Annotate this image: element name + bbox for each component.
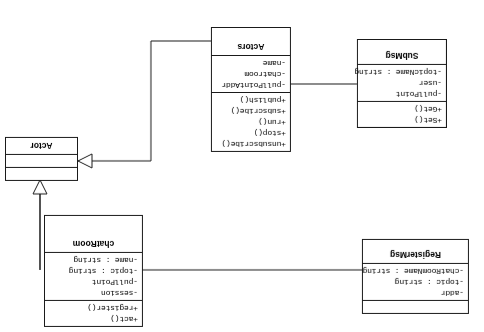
actors-methods-compartment: +unsubscribe() +stop() +run() +subscribe…: [212, 92, 290, 151]
attribute-item: -pullPoint: [49, 277, 138, 288]
uml-diagram: -addr -topic : string -chatRoomName : st…: [0, 0, 484, 332]
actors-attributes-compartment: -pullPointAddr -chatroom -name: [212, 55, 290, 92]
attribute-item: -topic : string: [367, 277, 464, 288]
class-box-registermsg[interactable]: -addr -topic : string -chatRoomName : st…: [362, 239, 469, 314]
attribute-item: -user: [362, 78, 442, 89]
method-item: +unsubscribe(): [216, 139, 286, 150]
method-item: +Get(): [362, 104, 442, 115]
registermsg-class-name: RegisterMsg: [363, 247, 468, 263]
actor-methods-compartment: [6, 167, 77, 180]
attribute-item: -pullPoint: [362, 89, 442, 100]
diagram-canvas: -addr -topic : string -chatRoomName : st…: [0, 0, 484, 332]
actor-class-name: Actor: [6, 138, 77, 154]
attribute-item: -session: [49, 288, 138, 299]
attribute-item: -chatroom: [216, 69, 286, 80]
submsg-attributes-compartment: -pullPoint -user -topicName : string: [358, 64, 446, 101]
submsg-class-name: SubMsg: [358, 48, 446, 64]
actors-class-name: Actors: [212, 39, 290, 55]
method-item: +Set(): [362, 115, 442, 126]
class-box-chatroom[interactable]: +act() +register() -session -pullPoint -…: [44, 215, 143, 327]
submsg-methods-compartment: +Set() +Get(): [358, 101, 446, 127]
method-item: +act(): [49, 314, 138, 325]
generalization-arrow-actors-actor: [78, 154, 92, 168]
attribute-item: -name : string: [49, 255, 138, 266]
method-item: +subscribe(): [216, 106, 286, 117]
attribute-item: -pullPointAddr: [216, 80, 286, 91]
method-item: +run(): [216, 117, 286, 128]
chatroom-class-name: chatRoom: [45, 236, 142, 252]
registermsg-attributes-compartment: -addr -topic : string -chatRoomName : st…: [363, 263, 468, 300]
attribute-item: -name: [216, 58, 286, 69]
class-box-submsg[interactable]: +Set() +Get() -pullPoint -user -topicNam…: [357, 39, 447, 128]
class-box-actors[interactable]: +unsubscribe() +stop() +run() +subscribe…: [211, 27, 291, 152]
attribute-item: -topicName : string: [362, 67, 442, 78]
attribute-item: -chatRoomName : string: [367, 266, 464, 277]
method-item: +stop(): [216, 128, 286, 139]
attribute-item: -topic : string: [49, 266, 138, 277]
chatroom-attributes-compartment: -session -pullPoint -topic : string -nam…: [45, 252, 142, 300]
actor-attributes-compartment: [6, 154, 77, 167]
registermsg-methods-compartment: [363, 300, 468, 313]
edge-actors-actor: [78, 41, 211, 161]
method-item: +register(): [49, 303, 138, 314]
attribute-item: -addr: [367, 288, 464, 299]
class-box-actor[interactable]: Actor: [5, 137, 78, 181]
chatroom-methods-compartment: +act() +register(): [45, 300, 142, 326]
generalization-arrow-chatroom-actor: [33, 180, 47, 194]
method-item: +publish(): [216, 95, 286, 106]
